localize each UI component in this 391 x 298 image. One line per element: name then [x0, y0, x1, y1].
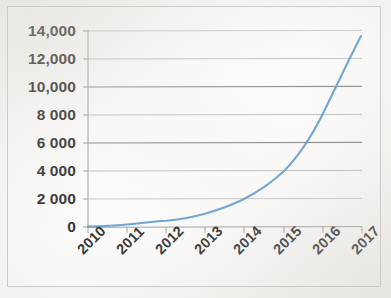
x-tick-label-2015: 2015 [270, 223, 305, 258]
x-tick-label-2013: 2013 [191, 223, 226, 258]
x-tick-label-2017: 2017 [348, 223, 383, 258]
x-tick-label-2011: 2011 [113, 223, 147, 257]
x-axis-tick-labels: 2010 2011 2012 2013 2014 2015 2016 2017 [0, 0, 391, 298]
chart-figure: 14,000 12,000 10,000 8 000 6 000 4 000 2… [0, 0, 391, 298]
x-tick-label-2016: 2016 [309, 223, 344, 258]
x-tick-label-2012: 2012 [152, 223, 187, 258]
x-tick-label-2010: 2010 [74, 223, 109, 258]
x-tick-label-2014: 2014 [230, 223, 265, 258]
